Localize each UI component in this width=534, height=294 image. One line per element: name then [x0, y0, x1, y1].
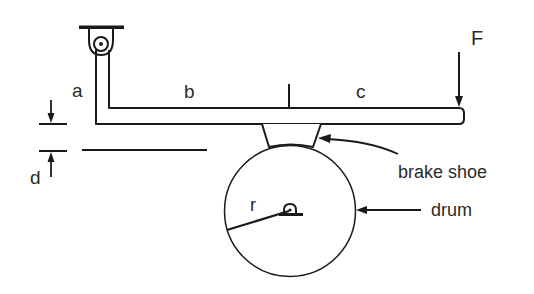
label-brake-shoe: brake shoe [398, 162, 487, 182]
dimension-d [39, 100, 67, 177]
label-c: c [356, 81, 366, 102]
label-d: d [30, 167, 41, 188]
top-support [79, 26, 124, 56]
brake-shoe [262, 124, 321, 147]
lever [96, 50, 464, 124]
drum-pointer-icon [356, 206, 421, 214]
radius-line [227, 211, 289, 230]
support-bar [79, 26, 124, 30]
label-b: b [184, 81, 195, 102]
label-f: F [471, 27, 483, 49]
label-drum: drum [431, 200, 472, 220]
brake-diagram: a b c F d r brake shoe drum [0, 0, 534, 294]
brake-shoe-pointer-icon [318, 134, 398, 154]
label-r: r [250, 195, 256, 215]
drum-hub-icon [279, 204, 303, 216]
label-a: a [72, 80, 83, 101]
force-arrow-icon [455, 52, 463, 107]
